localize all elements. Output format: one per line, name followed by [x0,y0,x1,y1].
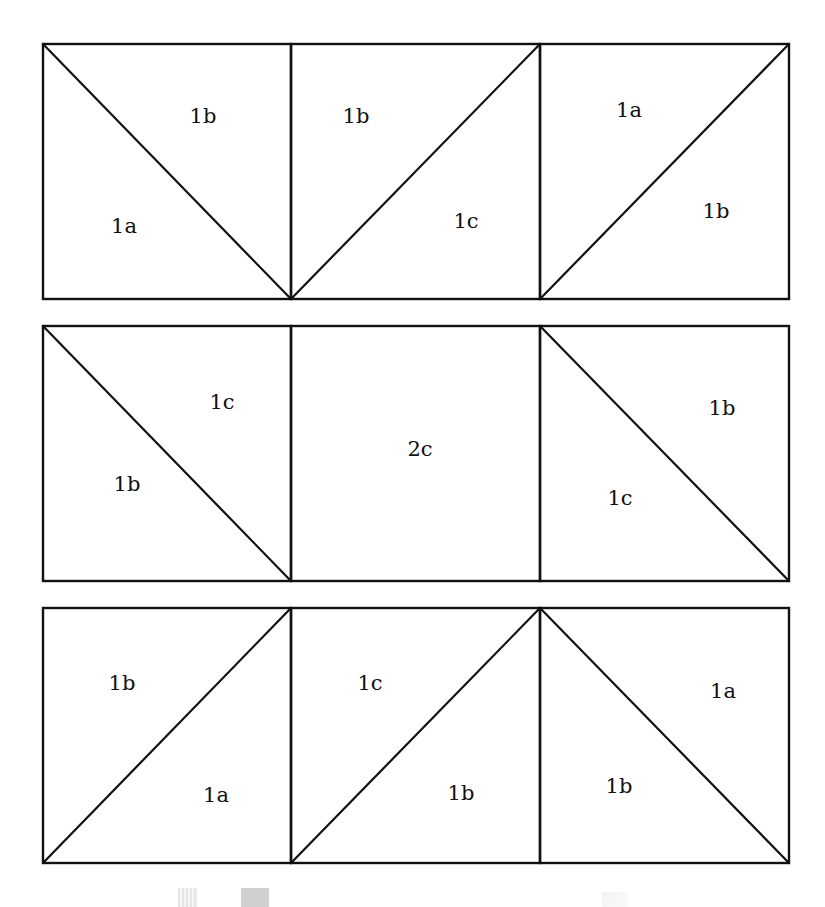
block-cell: 1c1b [291,608,540,863]
quilt-block-diagram: 1b1a1b1c1a1b1c1b2c1b1c1b1a1c1b1a1b [0,0,825,907]
block-cell: 1b1a [43,608,291,863]
piece-label: 1b [109,671,136,695]
piece-label: 1b [703,199,730,223]
block-cell: 1a1b [540,608,789,863]
block-cell: 1a1b [540,44,789,299]
scan-artifact [241,888,269,907]
piece-label: 1b [343,104,370,128]
piece-label: 1b [114,472,141,496]
diagonal-seam [43,44,291,299]
row-3: 1b1a1c1b1a1b [43,608,789,863]
block-cell: 2c [291,326,540,581]
block-cell: 1b1a [43,44,291,299]
piece-label: 1a [710,679,736,703]
piece-label: 1a [616,98,642,122]
block-cell: 1c1b [43,326,291,581]
piece-label: 1b [606,774,633,798]
diagonal-seam [291,44,540,299]
piece-label: 1b [448,781,475,805]
piece-label: 2c [407,437,432,461]
row-1: 1b1a1b1c1a1b [43,44,789,299]
scan-artifact [602,892,628,907]
piece-label: 1c [453,209,478,233]
diagonal-seam [291,608,540,863]
piece-label: 1a [111,214,137,238]
piece-label: 1c [607,486,632,510]
piece-label: 1c [209,390,234,414]
diagonal-seam [43,326,291,581]
diagonal-seam [43,608,291,863]
piece-label: 1a [203,783,229,807]
diagonal-seam [540,608,789,863]
block-cell: 1b1c [540,326,789,581]
block-cell: 1b1c [291,44,540,299]
diagonal-seam [540,44,789,299]
scan-artifact [178,888,198,907]
diagonal-seam [540,326,789,581]
piece-label: 1c [357,671,382,695]
piece-label: 1b [190,104,217,128]
row-2: 1c1b2c1b1c [43,326,789,581]
piece-label: 1b [709,396,736,420]
